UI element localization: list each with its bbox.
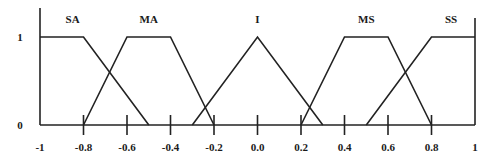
mf-label-i: I [255,13,259,25]
mf-ss [366,37,475,125]
mf-label-ma: MA [140,13,158,25]
x-tick-label: 0.6 [381,141,395,153]
x-tick-label: 0.0 [251,141,265,153]
mf-sa [40,37,149,125]
x-tick-label: -0.2 [205,141,223,153]
mf-label-ss: SS [445,13,457,25]
y-tick-label-0: 0 [17,119,23,131]
membership-function-labels: SAMAIMSSS [66,13,458,25]
mf-label-sa: SA [66,13,80,25]
x-tick-label: 1 [472,141,478,153]
y-tick-labels: 1 0 [17,31,23,131]
x-tick-label: 0.2 [294,141,308,153]
membership-functions [40,37,475,125]
mf-label-ms: MS [358,13,375,25]
x-tick-label: 0.4 [338,141,352,153]
x-tick-label: 0.8 [425,141,439,153]
x-tick-label: -1 [35,141,44,153]
x-tick-labels: -1-0.8-0.6-0.4-0.20.00.20.40.60.81 [35,141,477,153]
x-tick-label: -0.4 [162,141,180,153]
mf-ms [301,37,432,125]
membership-function-chart: -1-0.8-0.6-0.4-0.20.00.20.40.60.81 1 0 S… [0,0,490,158]
x-tick-label: -0.6 [118,141,136,153]
mf-i [192,37,322,125]
y-tick-label-1: 1 [17,31,23,43]
x-tick-label: -0.8 [75,141,93,153]
mf-ma [84,37,215,125]
